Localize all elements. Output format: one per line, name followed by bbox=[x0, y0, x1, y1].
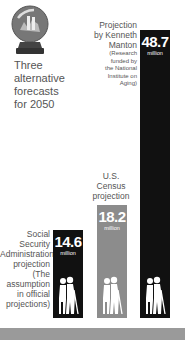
label-line: projection bbox=[0, 259, 50, 269]
note-line: (The bbox=[0, 269, 50, 279]
title-line: Three bbox=[14, 59, 65, 72]
note-line: the National bbox=[86, 65, 137, 73]
label-line: by Kenneth bbox=[86, 30, 137, 40]
bar-unit: million bbox=[53, 250, 83, 257]
crystal-ball-icon bbox=[10, 4, 50, 56]
note-line: (Research bbox=[86, 50, 137, 58]
elderly-couple-icon bbox=[142, 276, 168, 316]
bar-label-census: U.S. Census projection bbox=[90, 171, 132, 201]
note-line: Institute on bbox=[86, 73, 137, 81]
note-line: Aging) bbox=[86, 80, 137, 88]
bar-unit: million bbox=[97, 225, 127, 232]
note-line: projections) bbox=[0, 299, 50, 309]
label-line: projection bbox=[90, 191, 132, 201]
note-line: assumption bbox=[0, 279, 50, 289]
elderly-couple-icon bbox=[99, 276, 125, 316]
title-line: for 2050 bbox=[14, 98, 65, 111]
bar-label-ssa: Social Security Administration projectio… bbox=[0, 229, 50, 309]
label-line: Census bbox=[90, 181, 132, 191]
bar-census: 18.2 million bbox=[97, 205, 127, 318]
footer-band bbox=[0, 328, 185, 340]
bar-label-manton: Projection by Kenneth Manton (Research f… bbox=[86, 20, 137, 88]
label-line: Social bbox=[0, 229, 50, 239]
label-line: Security bbox=[0, 239, 50, 249]
label-line: U.S. bbox=[90, 171, 132, 181]
title-line: alternative bbox=[14, 72, 65, 85]
label-line: Manton bbox=[86, 40, 137, 50]
bar-value: 14.6 bbox=[53, 234, 83, 250]
note-line: in official bbox=[0, 289, 50, 299]
bar-value: 48.7 bbox=[140, 34, 170, 50]
label-line: Projection bbox=[86, 20, 137, 30]
chart-title: Three alternative forecasts for 2050 bbox=[14, 59, 65, 111]
title-line: forecasts bbox=[14, 85, 65, 98]
bar-ssa: 14.6 million bbox=[53, 230, 83, 318]
elderly-couple-icon bbox=[55, 276, 81, 316]
note-line: funded by bbox=[86, 58, 137, 66]
bar-manton: 48.7 million bbox=[140, 30, 170, 318]
label-line: Administration bbox=[0, 249, 50, 259]
bar-value: 18.2 bbox=[97, 209, 127, 225]
bar-note: (Research funded by the National Institu… bbox=[86, 50, 137, 88]
bar-unit: million bbox=[140, 50, 170, 57]
